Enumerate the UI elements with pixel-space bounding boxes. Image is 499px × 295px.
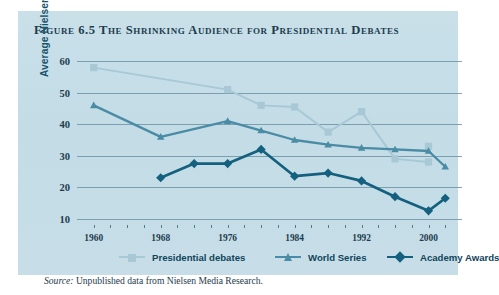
x-tick-mark <box>144 225 145 228</box>
legend-item[interactable]: Presidential debates <box>119 251 245 263</box>
x-tick-mark <box>261 225 262 228</box>
source-label: Source: <box>44 275 73 286</box>
data-point-square <box>358 108 365 115</box>
x-tick-mark <box>345 225 346 228</box>
data-point-diamond <box>156 173 165 182</box>
x-tick-label: 2000 <box>419 233 438 243</box>
x-tick-mark <box>429 225 430 228</box>
x-tick-mark <box>445 225 446 228</box>
x-tick-mark <box>311 225 312 228</box>
x-tick-label: 1976 <box>218 233 237 243</box>
data-point-square <box>425 158 432 165</box>
data-point-square <box>391 155 398 162</box>
legend-marker-triangle-icon <box>275 251 301 263</box>
data-point-diamond <box>390 192 399 201</box>
legend-label: Academy Awards <box>420 252 499 263</box>
x-tick-mark <box>127 225 128 228</box>
data-point-square <box>291 103 298 110</box>
x-tick-label: 1984 <box>285 233 304 243</box>
y-tick-label: 60 <box>60 56 71 67</box>
data-point-diamond <box>357 176 366 185</box>
x-tick-label: 1968 <box>151 233 170 243</box>
x-tick-mark <box>244 225 245 228</box>
x-tick-mark <box>328 225 329 228</box>
x-tick-mark <box>278 225 279 228</box>
legend-label: Presidential debates <box>152 252 245 263</box>
data-point-square <box>224 86 231 93</box>
y-tick-label: 10 <box>60 213 71 224</box>
x-tick-label: 1960 <box>84 233 103 243</box>
x-tick-mark <box>362 225 363 228</box>
x-tick-mark <box>177 225 178 228</box>
figure-title: Figure 6.5 The Shrinking Audience for Pr… <box>34 23 446 38</box>
plot-area: 102030405060196019681976198419922000 <box>77 55 462 225</box>
x-tick-mark <box>161 225 162 228</box>
y-axis-title: Average Nielsen rating <box>39 0 53 77</box>
x-tick-mark <box>194 225 195 228</box>
x-tick-mark <box>412 225 413 228</box>
data-point-square <box>258 102 265 109</box>
data-point-diamond <box>223 159 232 168</box>
x-tick-mark <box>295 225 296 228</box>
source-text: Unpublished data from Nielsen Media Rese… <box>73 275 262 286</box>
x-tick-mark <box>395 225 396 228</box>
x-tick-label: 1992 <box>352 233 371 243</box>
data-point-triangle <box>90 102 98 109</box>
data-point-square <box>324 129 331 136</box>
legend-item[interactable]: Academy Awards <box>387 251 499 263</box>
y-tick-label: 20 <box>60 182 71 193</box>
x-tick-mark <box>378 225 379 228</box>
x-tick-mark <box>94 225 95 228</box>
figure-panel: Figure 6.5 The Shrinking Audience for Pr… <box>18 11 458 275</box>
legend-item[interactable]: World Series <box>275 251 366 263</box>
y-tick-label: 30 <box>60 150 71 161</box>
legend-marker-diamond-icon <box>387 251 413 263</box>
legend-label: World Series <box>308 252 366 263</box>
data-point-diamond <box>190 159 199 168</box>
x-tick-mark <box>228 225 229 228</box>
legend-marker-square-icon <box>119 251 145 263</box>
y-tick-label: 50 <box>60 87 71 98</box>
data-point-square <box>90 64 97 71</box>
source-note: Source: Unpublished data from Nielsen Me… <box>44 275 263 286</box>
x-tick-mark <box>211 225 212 228</box>
x-tick-mark <box>110 225 111 228</box>
data-point-diamond <box>323 168 332 177</box>
chart-legend: Presidential debatesWorld SeriesAcademy … <box>77 251 462 267</box>
series-layer <box>77 55 462 225</box>
y-tick-label: 40 <box>60 119 71 130</box>
